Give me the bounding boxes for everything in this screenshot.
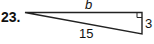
diagram: 23. b 3 15 [0,0,154,44]
hypotenuse-label: 15 [79,27,93,40]
side-label-b: b [85,0,92,11]
right-angle-marker-icon [137,13,142,18]
side-label-3: 3 [145,17,152,30]
right-triangle [0,0,154,44]
